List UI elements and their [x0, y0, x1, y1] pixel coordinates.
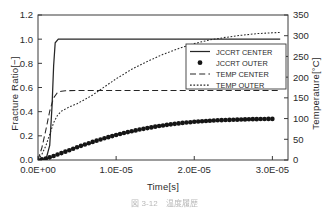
y-axis-left-tick-label: 0.4 [20, 106, 33, 117]
legend-label: TEMP CENTER [216, 70, 269, 79]
data-point-marker [176, 121, 181, 126]
data-point-marker [200, 119, 205, 124]
legend-marker-icon [198, 60, 203, 65]
data-point-marker [169, 122, 174, 127]
y-axis-left-tick-label: 0.8 [20, 58, 33, 69]
data-point-marker [172, 122, 177, 127]
data-point-marker [137, 127, 142, 132]
data-point-marker [106, 135, 111, 140]
data-point-marker [47, 155, 52, 160]
data-point-marker [133, 128, 138, 133]
y-axis-right-title: Temperature[°C] [310, 24, 321, 164]
y-axis-left-tick-label: 1.2 [20, 9, 33, 20]
y-axis-left-title: Fracture Ratio[−] [9, 24, 20, 164]
x-axis-tick-label: 3.0E-05 [256, 164, 289, 175]
y-axis-left-tick-label: 0.2 [20, 130, 33, 141]
data-point-marker [86, 141, 91, 146]
data-point-marker [129, 129, 134, 134]
data-point-marker [102, 136, 107, 141]
data-point-marker [126, 130, 131, 135]
data-point-marker [204, 119, 209, 124]
data-point-marker [270, 117, 275, 122]
figure-container: 0.00.20.40.60.81.01.20501001502002503003… [0, 0, 329, 208]
y-axis-left-tick-label: 1.0 [20, 34, 33, 45]
y-axis-left-tick-label: 0.6 [20, 82, 33, 93]
figure-caption: 図 3-12 温度履歴 [0, 197, 329, 208]
data-point-marker [83, 142, 88, 147]
data-point-marker [75, 145, 80, 150]
data-point-marker [184, 120, 189, 125]
data-point-marker [114, 133, 119, 138]
data-point-marker [180, 121, 185, 126]
data-point-marker [98, 137, 103, 142]
data-point-marker [79, 144, 84, 149]
y-axis-right-tick-label: 200 [293, 72, 309, 83]
chart-canvas: 0.00.20.40.60.81.01.20501001502002503003… [0, 0, 329, 208]
data-point-marker [141, 127, 146, 132]
data-point-marker [94, 138, 99, 143]
data-point-marker [110, 134, 115, 139]
y-axis-right-tick-label: 100 [293, 113, 309, 124]
y-axis-right-tick-label: 300 [293, 30, 309, 41]
data-point-marker [149, 125, 154, 130]
data-point-marker [51, 154, 56, 159]
legend-label: JCCRT CENTER [216, 48, 272, 57]
data-point-marker [157, 124, 162, 129]
chart-legend: JCCRT CENTERJCCRT OUTERTEMP CENTERTEMP O… [186, 44, 286, 90]
legend-label: TEMP OUTER [216, 81, 264, 90]
data-point-marker [208, 118, 213, 123]
y-axis-right-tick-label: 250 [293, 51, 309, 62]
data-point-marker [90, 140, 95, 145]
data-point-marker [71, 146, 76, 151]
data-point-marker [165, 123, 170, 128]
data-point-marker [188, 120, 193, 125]
data-point-marker [122, 131, 127, 136]
x-axis-tick-label: 0.0E+00 [20, 164, 56, 175]
x-axis-tick-label: 2.0E-05 [178, 164, 211, 175]
data-point-marker [196, 119, 201, 124]
y-axis-right-tick-label: 350 [293, 9, 309, 20]
data-point-marker [161, 123, 166, 128]
data-point-marker [55, 152, 60, 157]
data-point-marker [145, 126, 150, 131]
data-point-marker [153, 124, 158, 129]
y-axis-right-tick-label: 50 [293, 134, 304, 145]
series-markers [36, 117, 275, 163]
y-axis-right-tick-label: 0 [293, 154, 298, 165]
x-axis-tick-label: 1.0E-05 [99, 164, 132, 175]
data-point-marker [67, 148, 72, 153]
legend-label: JCCRT OUTER [216, 59, 268, 68]
y-axis-right-tick-label: 150 [293, 92, 309, 103]
data-point-marker [118, 132, 123, 137]
data-point-marker [40, 157, 45, 162]
data-point-marker [211, 118, 216, 123]
data-point-marker [63, 149, 68, 154]
data-point-marker [192, 120, 197, 125]
x-axis-title: Time[s] [88, 181, 238, 192]
data-point-marker [59, 151, 64, 156]
